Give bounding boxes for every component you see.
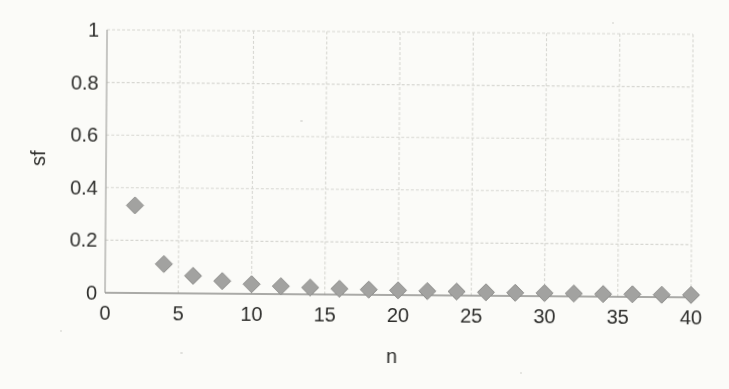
y-axis-title: sf: [23, 134, 53, 182]
data-point-diamond: [272, 278, 289, 295]
data-point-diamond: [126, 197, 143, 214]
x-tick-label: 20: [387, 304, 409, 326]
data-point-diamond: [184, 267, 201, 284]
data-point-diamond: [565, 285, 582, 302]
data-point-diamond: [302, 279, 319, 296]
data-point-diamond: [507, 284, 524, 301]
photographed-book-page: 00.20.40.60.810510152025303540 sf n: [0, 0, 729, 389]
x-tick-label: 25: [460, 305, 482, 327]
x-gridline: [252, 31, 254, 294]
x-tick-label: 40: [680, 306, 702, 328]
x-tick-label: 15: [313, 303, 335, 325]
y-tick-label: 0.2: [70, 229, 98, 251]
data-point-diamond: [624, 286, 641, 303]
data-point-diamond: [536, 284, 553, 301]
data-point-diamond: [419, 283, 436, 300]
y-tick-label: 0.4: [70, 176, 98, 198]
data-point-diamond: [477, 284, 494, 301]
data-point-diamond: [448, 283, 465, 300]
data-point-diamond: [595, 285, 612, 302]
data-point-diamond: [653, 286, 670, 303]
y-tick-label: 0.6: [70, 124, 98, 146]
x-gridline: [618, 34, 620, 297]
data-point-diamond: [155, 255, 172, 272]
y-tick-label: 0.8: [71, 71, 99, 93]
data-point-diamond: [389, 282, 406, 299]
x-tick-label: 30: [533, 305, 555, 327]
x-gridline: [471, 33, 473, 296]
x-gridline: [325, 31, 327, 294]
x-gridline: [545, 33, 547, 296]
x-tick-label: 35: [606, 306, 628, 328]
x-tick-label: 0: [99, 302, 110, 324]
data-point-diamond: [682, 286, 699, 303]
chart-canvas: 00.20.40.60.810510152025303540: [0, 0, 729, 389]
x-tick-label: 10: [240, 303, 262, 325]
x-tick-label: 5: [172, 302, 183, 324]
y-axis-line: [105, 30, 107, 293]
y-tick-label: 0: [86, 282, 97, 304]
data-point-diamond: [243, 276, 260, 293]
y-tick-label: 1: [88, 19, 99, 41]
x-gridline: [398, 32, 400, 295]
scatter-chart-figure: 00.20.40.60.810510152025303540 sf n: [0, 0, 729, 389]
x-gridline: [178, 30, 180, 293]
x-axis-title: n: [356, 346, 426, 367]
data-point-diamond: [214, 272, 231, 289]
x-gridline: [691, 34, 693, 297]
